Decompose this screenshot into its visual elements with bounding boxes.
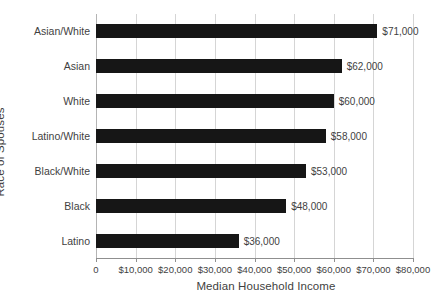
x-tick-label: $20,000 — [158, 264, 192, 275]
bar-value-label: $58,000 — [331, 131, 367, 142]
x-tick-label: $40,000 — [237, 264, 271, 275]
bar — [96, 234, 239, 248]
x-axis-tick-labels: 0$10,000$20,000$30,000$40,000$50,000$60,… — [0, 264, 436, 278]
bar — [96, 199, 286, 213]
gridline-70000 — [373, 14, 374, 258]
x-tick-label: $80,000 — [396, 264, 430, 275]
y-tick-label: Latino/White — [20, 130, 90, 142]
bar — [96, 24, 377, 38]
x-tick-mark — [136, 258, 137, 262]
bar-chart: Race of Spouses Asian/WhiteAsianWhiteLat… — [0, 0, 436, 304]
x-tick-mark — [96, 258, 97, 262]
x-tick-mark — [255, 258, 256, 262]
y-tick-label: Asian — [20, 60, 90, 72]
y-tick-label: Black/White — [20, 165, 90, 177]
bar — [96, 164, 306, 178]
y-tick-label: Black — [20, 200, 90, 212]
bar — [96, 94, 334, 108]
bar-value-label: $62,000 — [347, 61, 383, 72]
y-axis-tick-labels: Asian/WhiteAsianWhiteLatino/WhiteBlack/W… — [20, 14, 90, 258]
bar-value-label: $60,000 — [339, 96, 375, 107]
x-axis-title: Median Household Income — [96, 280, 436, 292]
x-tick-label: $10,000 — [118, 264, 152, 275]
x-tick-mark — [373, 258, 374, 262]
bar-value-label: $48,000 — [291, 200, 327, 211]
x-tick-mark — [294, 258, 295, 262]
x-tick-mark — [175, 258, 176, 262]
bar-value-label: $71,000 — [382, 26, 418, 37]
x-tick-label: $70,000 — [356, 264, 390, 275]
bar-value-label: $53,000 — [311, 165, 347, 176]
y-tick-label: White — [20, 95, 90, 107]
y-tick-label: Asian/White — [20, 25, 90, 37]
plot-area: $71,000$62,000$60,000$58,000$53,000$48,0… — [96, 14, 413, 258]
bar — [96, 59, 342, 73]
x-tick-label: $60,000 — [317, 264, 351, 275]
x-tick-mark — [215, 258, 216, 262]
gridline-80000 — [413, 14, 414, 258]
x-tick-label: $30,000 — [198, 264, 232, 275]
x-tick-label: 0 — [93, 264, 98, 275]
x-tick-label: $50,000 — [277, 264, 311, 275]
x-tick-mark — [413, 258, 414, 262]
bar-value-label: $36,000 — [244, 235, 280, 246]
bar — [96, 129, 326, 143]
y-tick-label: Latino — [20, 235, 90, 247]
x-tick-mark — [334, 258, 335, 262]
